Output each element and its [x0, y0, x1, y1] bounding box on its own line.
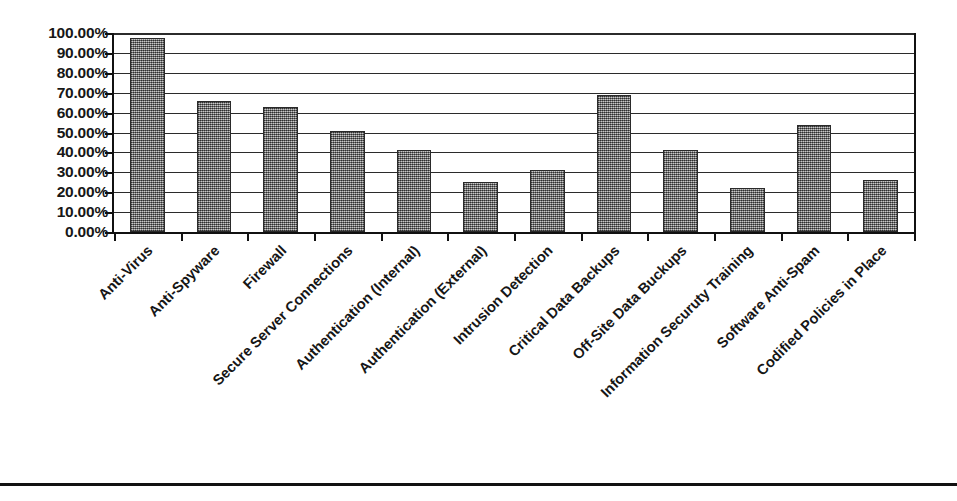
bar	[263, 107, 298, 232]
y-axis-tick-mark	[105, 152, 114, 154]
y-axis-tick-label: 40.00%	[30, 144, 108, 160]
y-axis-tick-mark	[105, 172, 114, 174]
x-axis-tick-mark	[381, 232, 383, 241]
bar	[797, 125, 832, 232]
y-axis-tick-label: 60.00%	[30, 105, 108, 121]
y-axis-tick-mark	[105, 192, 114, 194]
x-axis-tick-mark	[847, 232, 849, 241]
plot-wrapper: 0.00%10.00%20.00%30.00%40.00%50.00%60.00…	[0, 0, 957, 440]
x-axis-tick-mark	[181, 232, 183, 241]
page-separator-rule	[0, 483, 957, 486]
y-axis-tick-label: 30.00%	[30, 164, 108, 180]
bar	[330, 131, 365, 232]
x-axis-tick-mark	[647, 232, 649, 241]
bar	[730, 188, 765, 232]
y-axis-tick-label: 80.00%	[30, 65, 108, 81]
y-axis-tick-label: 90.00%	[30, 45, 108, 61]
y-axis-tick-mark	[105, 73, 114, 75]
bar	[463, 182, 498, 232]
bar	[197, 101, 232, 232]
y-axis-tick-mark	[105, 133, 114, 135]
y-axis-tick-mark	[105, 232, 114, 234]
plot-area	[112, 33, 916, 234]
x-axis-tick-mark	[581, 232, 583, 241]
x-axis-tick-mark	[781, 232, 783, 241]
bar-chart-figure: 0.00%10.00%20.00%30.00%40.00%50.00%60.00…	[0, 0, 957, 501]
y-axis-tick-label: 50.00%	[30, 125, 108, 141]
bars	[114, 33, 914, 232]
x-axis-tick-mark	[314, 232, 316, 241]
y-axis-tick-label: 70.00%	[30, 85, 108, 101]
bar	[597, 95, 632, 232]
x-axis-tick-mark	[914, 232, 916, 241]
y-axis-tick-mark	[105, 93, 114, 95]
bar	[130, 38, 165, 232]
y-axis-tick-label: 10.00%	[30, 204, 108, 220]
x-axis-tick-mark	[447, 232, 449, 241]
bar	[663, 150, 698, 232]
y-axis-tick-mark	[105, 33, 114, 35]
x-axis-tick-mark	[247, 232, 249, 241]
y-axis-tick-label: 0.00%	[30, 224, 108, 240]
bar	[530, 170, 565, 232]
y-axis-tick-label: 100.00%	[30, 25, 108, 41]
x-axis-tick-mark	[514, 232, 516, 241]
x-axis-tick-mark	[714, 232, 716, 241]
bar	[863, 180, 898, 232]
y-axis-tick-label: 20.00%	[30, 184, 108, 200]
x-axis-tick-mark	[114, 232, 116, 241]
y-axis-tick-mark	[105, 212, 114, 214]
y-axis-tick-mark	[105, 113, 114, 115]
y-axis-tick-labels: 0.00%10.00%20.00%30.00%40.00%50.00%60.00…	[30, 24, 108, 240]
x-axis-category-labels: Anti-VirusAnti-SpywareFirewallSecure Ser…	[112, 243, 912, 433]
bar	[397, 150, 432, 232]
y-axis-tick-mark	[105, 53, 114, 55]
